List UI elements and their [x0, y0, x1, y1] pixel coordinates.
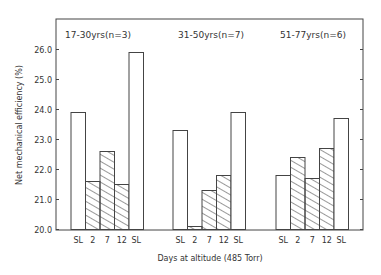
- bar: [71, 113, 86, 230]
- x-tick-label: SL: [131, 236, 141, 245]
- bar: [305, 179, 320, 230]
- bar-chart: 20.021.022.023.024.025.026.0 SL2712SLSL2…: [0, 0, 381, 275]
- group-label-1: 17-30yrs(n=3): [65, 30, 131, 40]
- y-tick-label: 22.0: [34, 166, 52, 175]
- x-tick-label: 12: [117, 236, 127, 245]
- bar: [202, 191, 217, 230]
- y-tick-label: 21.0: [34, 196, 52, 205]
- bars: [71, 53, 349, 230]
- x-tick-label: 12: [322, 236, 332, 245]
- bar: [173, 131, 188, 230]
- y-axis-label: Net mechanical efficiency (%): [15, 65, 24, 185]
- bar: [276, 176, 291, 230]
- x-tick-label: 2: [192, 236, 197, 245]
- group-label-3: 51-77yrs(n=6): [280, 30, 346, 40]
- x-tick-label: SL: [336, 236, 346, 245]
- y-tick-label: 23.0: [34, 136, 52, 145]
- x-tick-label: 2: [295, 236, 300, 245]
- x-tick-label: SL: [233, 236, 243, 245]
- x-tick-label: 7: [207, 236, 212, 245]
- y-tick-label: 24.0: [34, 106, 52, 115]
- bar: [115, 185, 130, 230]
- x-tick-label: 12: [219, 236, 229, 245]
- y-tick-label: 26.0: [34, 46, 52, 55]
- y-tick-label: 20.0: [34, 226, 52, 235]
- bar: [86, 182, 101, 230]
- y-tick-label: 25.0: [34, 76, 52, 85]
- x-tick-labels: SL2712SLSL2712SLSL2712SL: [73, 236, 346, 245]
- bar: [231, 113, 246, 230]
- x-tick-label: 2: [90, 236, 95, 245]
- bar: [217, 176, 232, 230]
- x-tick-label: 7: [310, 236, 315, 245]
- x-tick-label: SL: [175, 236, 185, 245]
- bar: [334, 119, 349, 230]
- x-tick-label: 7: [105, 236, 110, 245]
- x-tick-label: SL: [73, 236, 83, 245]
- x-axis-label: Days at altitude (485 Torr): [157, 254, 262, 263]
- bar: [100, 152, 115, 230]
- bar: [291, 158, 306, 230]
- bar: [129, 53, 144, 230]
- group-label-2: 31-50yrs(n=7): [178, 30, 244, 40]
- x-tick-label: SL: [278, 236, 288, 245]
- bar: [188, 227, 203, 230]
- bar: [320, 149, 335, 230]
- y-axis: 20.021.022.023.024.025.026.0: [34, 46, 59, 235]
